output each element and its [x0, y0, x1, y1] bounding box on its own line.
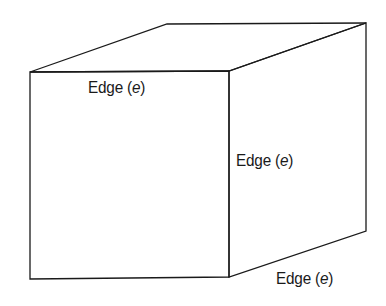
top-face	[30, 23, 366, 72]
depth-edge-label: Edge (e)	[276, 269, 333, 289]
label-text: Edge (	[276, 269, 320, 288]
label-text: Edge (	[236, 151, 280, 170]
edge-variable: e	[132, 78, 140, 97]
cube-drawing	[0, 0, 386, 306]
edge-variable: e	[280, 151, 288, 170]
edge-variable: e	[320, 269, 328, 288]
cube-diagram: Edge (e) Edge (e) Edge (e)	[0, 0, 386, 306]
label-text: )	[288, 151, 293, 170]
right-face	[229, 23, 366, 277]
label-text: Edge (	[88, 78, 132, 97]
front-face	[30, 71, 229, 279]
label-text: )	[328, 269, 333, 288]
label-text: )	[140, 78, 145, 97]
right-edge-label: Edge (e)	[236, 151, 293, 171]
top-edge-label: Edge (e)	[88, 78, 145, 98]
